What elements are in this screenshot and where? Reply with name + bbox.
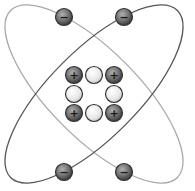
- electron-sign: −: [59, 166, 68, 179]
- electron-sign: −: [59, 11, 68, 24]
- proton: +: [66, 105, 83, 122]
- neutron-body: [86, 105, 103, 122]
- proton: +: [106, 105, 123, 122]
- proton: +: [106, 67, 123, 84]
- neutron-body: [66, 86, 83, 103]
- proton-sign: +: [69, 107, 78, 120]
- atom-diagram: ++++ −−−−: [0, 0, 195, 191]
- electron-sign: −: [119, 166, 128, 179]
- neutron: [86, 105, 103, 122]
- neutron-body: [86, 67, 103, 84]
- electron: −: [56, 9, 73, 26]
- orbits: [0, 0, 195, 191]
- electron: −: [116, 9, 133, 26]
- proton: +: [66, 67, 83, 84]
- electron-sign: −: [119, 11, 128, 24]
- neutron: [86, 67, 103, 84]
- electron: −: [56, 164, 73, 181]
- neutron-body: [106, 86, 123, 103]
- neutron: [106, 86, 123, 103]
- proton-sign: +: [69, 69, 78, 82]
- orbit-light: [0, 0, 195, 191]
- neutron: [66, 86, 83, 103]
- electron: −: [116, 164, 133, 181]
- proton-sign: +: [109, 69, 118, 82]
- nucleus: ++++: [66, 67, 123, 122]
- orbit-dark: [0, 0, 195, 191]
- proton-sign: +: [109, 107, 118, 120]
